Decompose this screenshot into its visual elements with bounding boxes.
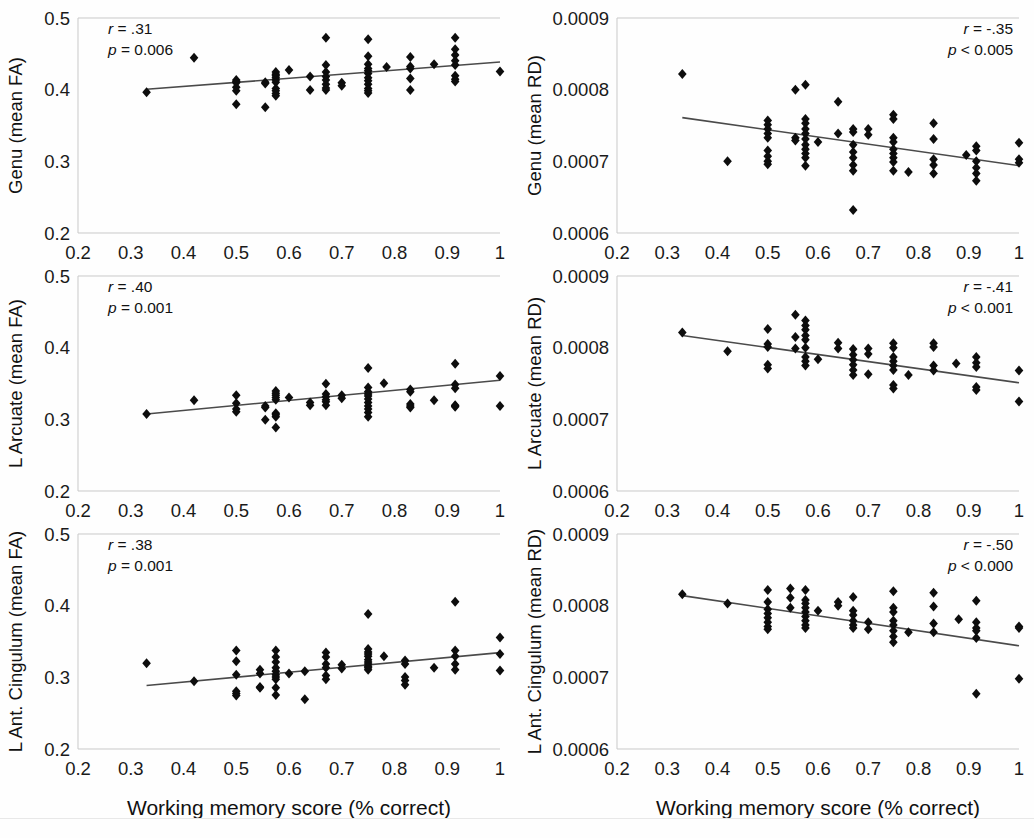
data-point: [232, 656, 241, 666]
panel-arcuate-fa: 0.20.30.40.50.20.30.40.50.60.70.80.91L A…: [0, 258, 517, 530]
data-point: [190, 53, 199, 63]
stat-p-value: p < 0.000: [947, 557, 1013, 574]
plot-genu-rd: 0.00060.00070.00080.00090.20.30.40.50.60…: [517, 0, 1034, 272]
panel-cingulum-rd: 0.00060.00070.00080.00090.20.30.40.50.60…: [517, 516, 1034, 826]
data-point: [786, 583, 795, 593]
data-point: [929, 160, 938, 170]
data-point: [496, 66, 505, 76]
data-point: [929, 134, 938, 144]
data-point: [301, 694, 310, 704]
data-point: [430, 663, 439, 673]
data-point: [1015, 674, 1024, 684]
data-point: [1015, 366, 1024, 376]
data-point: [849, 166, 858, 176]
data-point: [261, 102, 270, 112]
x-tick-label: 0.9: [434, 758, 460, 779]
data-point: [864, 624, 873, 634]
plot-genu-fa: 0.20.30.40.50.20.30.40.50.60.70.80.91Gen…: [0, 0, 517, 272]
data-point: [322, 379, 331, 389]
data-point: [814, 137, 823, 147]
y-axis-title: L Ant. Cingulum (mean FA): [5, 531, 26, 752]
figure-root: 0.20.30.40.50.20.30.40.50.60.70.80.91Gen…: [0, 0, 1034, 838]
y-tick-label: 0.4: [44, 337, 70, 358]
data-point: [834, 128, 843, 138]
stat-r-value: r = .31: [108, 20, 152, 37]
panel-cingulum-fa: 0.20.30.40.50.20.30.40.50.60.70.80.91L A…: [0, 516, 517, 826]
x-tick-label: 0.7: [855, 758, 881, 779]
x-tick-label: 0.8: [382, 758, 408, 779]
data-point: [285, 65, 294, 75]
data-point: [301, 666, 310, 676]
data-point: [929, 619, 938, 629]
data-point: [451, 402, 460, 412]
data-point: [889, 166, 898, 176]
y-tick-label: 0.0008: [552, 337, 609, 358]
data-point: [451, 665, 460, 675]
x-tick-label: 0.5: [755, 758, 781, 779]
data-point: [801, 161, 810, 171]
data-point: [406, 52, 415, 62]
y-axis-title: Genu (mean FA): [5, 57, 26, 194]
data-point: [380, 651, 389, 661]
data-point: [261, 415, 270, 425]
data-point: [496, 371, 505, 381]
x-tick-label: 0.7: [329, 758, 355, 779]
data-point: [380, 378, 389, 388]
data-point: [723, 156, 732, 166]
y-axis-title: Genu (mean RD): [524, 55, 545, 196]
data-point: [142, 409, 151, 419]
data-point: [814, 606, 823, 616]
data-point: [723, 346, 732, 356]
x-tick-label: 0.3: [118, 758, 144, 779]
data-point: [929, 627, 938, 637]
data-point: [849, 592, 858, 602]
data-point: [190, 676, 199, 686]
data-point: [406, 74, 415, 84]
data-point: [430, 395, 439, 405]
x-tick-label: 0.2: [604, 758, 630, 779]
stat-p-value: p = 0.001: [107, 557, 173, 574]
data-point: [801, 585, 810, 595]
y-tick-label: 0.0007: [552, 409, 609, 430]
data-point: [904, 167, 913, 177]
y-axis-title: L Arcuate (mean RD): [524, 297, 545, 470]
y-tick-label: 0.4: [44, 79, 70, 100]
data-point: [972, 689, 981, 699]
data-point: [929, 601, 938, 611]
stat-p-value: p < 0.001: [947, 299, 1013, 316]
y-tick-label: 0.2: [44, 223, 70, 244]
data-point: [142, 658, 151, 668]
data-point: [496, 401, 505, 411]
data-point: [952, 358, 961, 368]
x-tick-label: 0.3: [654, 758, 680, 779]
data-point: [272, 690, 281, 700]
data-point: [929, 588, 938, 598]
bottom-divider: [0, 818, 1034, 819]
x-tick-label: 0.4: [171, 758, 197, 779]
data-point: [1015, 396, 1024, 406]
data-point: [864, 130, 873, 140]
data-point: [190, 395, 199, 405]
data-point: [306, 85, 315, 95]
data-point: [929, 169, 938, 179]
x-tick-label: 0.2: [65, 758, 91, 779]
data-point: [496, 633, 505, 643]
data-point: [232, 645, 241, 655]
x-axis-title: Working memory score (% correct): [127, 796, 451, 819]
data-point: [801, 343, 810, 353]
data-point: [285, 668, 294, 678]
y-tick-label: 0.0006: [552, 739, 609, 760]
plot-arcuate-rd: 0.00060.00070.00080.00090.20.30.40.50.60…: [517, 258, 1034, 530]
data-point: [864, 349, 873, 359]
data-point: [496, 649, 505, 659]
stat-p-value: p = 0.001: [107, 299, 173, 316]
y-tick-label: 0.5: [44, 266, 70, 287]
data-point: [834, 343, 843, 353]
x-tick-label: 1: [495, 758, 505, 779]
stat-r-value: r = -.50: [963, 536, 1013, 553]
y-tick-label: 0.3: [44, 151, 70, 172]
y-tick-label: 0.5: [44, 524, 70, 545]
stat-p-value: p < 0.005: [947, 41, 1013, 58]
data-point: [364, 609, 373, 619]
y-tick-label: 0.0008: [552, 79, 609, 100]
